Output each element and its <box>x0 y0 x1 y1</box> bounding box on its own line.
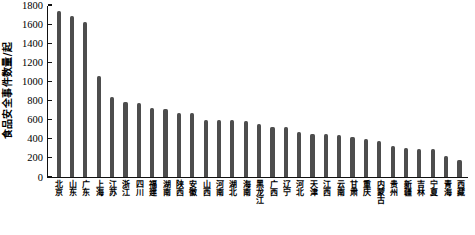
x-axis-label-slot: 江苏 <box>105 180 118 235</box>
bar[interactable] <box>284 127 288 177</box>
bar[interactable] <box>97 76 101 177</box>
bar[interactable] <box>297 132 301 177</box>
x-axis-label: 内蒙古 <box>375 180 383 204</box>
y-axis-tick-label: 800 <box>27 93 43 108</box>
x-axis-label-slot: 贵州 <box>386 180 399 235</box>
x-axis-label: 浙江 <box>120 180 128 196</box>
bar-slot <box>132 6 145 177</box>
x-axis-label-slot: 安徽 <box>185 180 198 235</box>
bar[interactable] <box>57 11 61 177</box>
bar-slot <box>65 6 78 177</box>
bar-slot <box>52 6 65 177</box>
bar[interactable] <box>270 127 274 177</box>
x-axis-label-slot: 湖南 <box>158 180 171 235</box>
x-axis-label: 西藏 <box>455 180 463 196</box>
bar-slot <box>319 6 332 177</box>
x-axis-label-slot: 陕西 <box>172 180 185 235</box>
bar[interactable] <box>83 22 87 177</box>
x-axis-label-slot: 上海 <box>91 180 104 235</box>
bar[interactable] <box>244 121 248 177</box>
x-axis-label: 辽宁 <box>281 180 289 196</box>
x-axis-label: 安徽 <box>187 180 195 196</box>
x-axis-label: 贵州 <box>388 180 396 196</box>
x-axis-label: 宁夏 <box>428 180 436 196</box>
bar-slot <box>239 6 252 177</box>
x-axis-label: 山西 <box>201 180 209 196</box>
y-axis-tick-label: 1600 <box>22 17 43 32</box>
bar[interactable] <box>310 134 314 177</box>
bar-slot <box>346 6 359 177</box>
bar[interactable] <box>110 97 114 177</box>
x-axis-label: 青海 <box>442 180 450 196</box>
x-axis-label: 上海 <box>94 180 102 196</box>
x-axis-label: 黑龙江 <box>254 180 262 204</box>
bar-slot <box>333 6 346 177</box>
x-axis-label: 天津 <box>308 180 316 196</box>
plot-area: 020040060080010001200140016001800 <box>47 6 468 178</box>
x-axis-label-slot: 辽宁 <box>279 180 292 235</box>
bar-slot <box>119 6 132 177</box>
bar[interactable] <box>377 141 381 177</box>
bar[interactable] <box>364 139 368 177</box>
x-axis-label: 河北 <box>295 180 303 196</box>
bar-slot <box>306 6 319 177</box>
x-axis-label: 甘肃 <box>348 180 356 196</box>
x-axis-label-slot: 山西 <box>198 180 211 235</box>
x-axis-label-slot: 福建 <box>145 180 158 235</box>
x-axis-label-slot: 广东 <box>78 180 91 235</box>
bar-slot <box>426 6 439 177</box>
x-axis-label: 广西 <box>268 180 276 196</box>
x-axis-label-slot: 宁夏 <box>426 180 439 235</box>
bar[interactable] <box>137 103 141 177</box>
y-axis-title: 食品安全事件数量/起 <box>0 0 14 180</box>
bar-chart: 食品安全事件数量/起 02004006008001000120014001600… <box>0 0 475 235</box>
y-axis-tick-label: 600 <box>27 112 43 127</box>
bar[interactable] <box>150 108 154 177</box>
bar[interactable] <box>404 148 408 177</box>
x-axis-label-slot: 内蒙古 <box>372 180 385 235</box>
x-axis-label: 新疆 <box>402 180 410 196</box>
bar-slot <box>252 6 265 177</box>
bar-slot <box>453 6 466 177</box>
bar[interactable] <box>337 135 341 177</box>
y-axis-tick-label: 0 <box>38 170 43 185</box>
bar[interactable] <box>431 149 435 177</box>
x-axis-label-slot: 青海 <box>439 180 452 235</box>
x-axis-labels: 北京山东广东上海江苏浙江四川福建湖南陕西安徽山西河南湖北海南黑龙江广西辽宁河北天… <box>47 180 468 235</box>
bar[interactable] <box>123 102 127 177</box>
bar[interactable] <box>163 109 167 177</box>
x-axis-label: 河南 <box>214 180 222 196</box>
bar[interactable] <box>204 120 208 177</box>
bar-slot <box>226 6 239 177</box>
x-axis-label: 海南 <box>241 180 249 196</box>
x-axis-label-slot: 西藏 <box>453 180 466 235</box>
bar[interactable] <box>230 120 234 177</box>
bar-slot <box>373 6 386 177</box>
bar[interactable] <box>190 113 194 177</box>
bar-slot <box>199 6 212 177</box>
bar[interactable] <box>177 113 181 177</box>
bar[interactable] <box>70 16 74 177</box>
bar[interactable] <box>391 146 395 177</box>
bar-slot <box>212 6 225 177</box>
bar[interactable] <box>350 137 354 177</box>
x-axis-label-slot: 重庆 <box>359 180 372 235</box>
x-axis-label: 北京 <box>53 180 61 196</box>
x-axis-label-slot: 河北 <box>292 180 305 235</box>
bar[interactable] <box>457 160 461 177</box>
x-axis-label-slot: 江西 <box>319 180 332 235</box>
bar[interactable] <box>324 134 328 177</box>
bar-slot <box>413 6 426 177</box>
x-axis-label-slot: 黑龙江 <box>252 180 265 235</box>
y-axis-tick-label: 1000 <box>22 74 43 89</box>
bar[interactable] <box>257 124 261 178</box>
bar-slot <box>146 6 159 177</box>
bar[interactable] <box>444 156 448 177</box>
bar-slot <box>79 6 92 177</box>
x-axis-label-slot: 湖北 <box>225 180 238 235</box>
x-axis-label-slot: 天津 <box>305 180 318 235</box>
bar-slot <box>92 6 105 177</box>
bar[interactable] <box>417 149 421 177</box>
y-axis-tick-label: 1400 <box>22 36 43 51</box>
bar[interactable] <box>217 120 221 177</box>
